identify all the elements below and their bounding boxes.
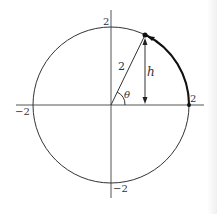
circle-diagram: 2 −2 −2 2 2 h θ	[0, 0, 217, 214]
label-radius: 2	[118, 60, 125, 73]
label-theta: θ	[124, 89, 130, 100]
label-y-neg: −2	[113, 183, 128, 194]
label-height: h	[147, 65, 155, 79]
label-x-pos: 2	[190, 93, 196, 104]
label-y-pos: 2	[103, 16, 109, 27]
height-arrow-down-icon	[143, 97, 148, 104]
point-on-circle	[143, 33, 148, 38]
label-x-neg: −2	[15, 106, 30, 117]
